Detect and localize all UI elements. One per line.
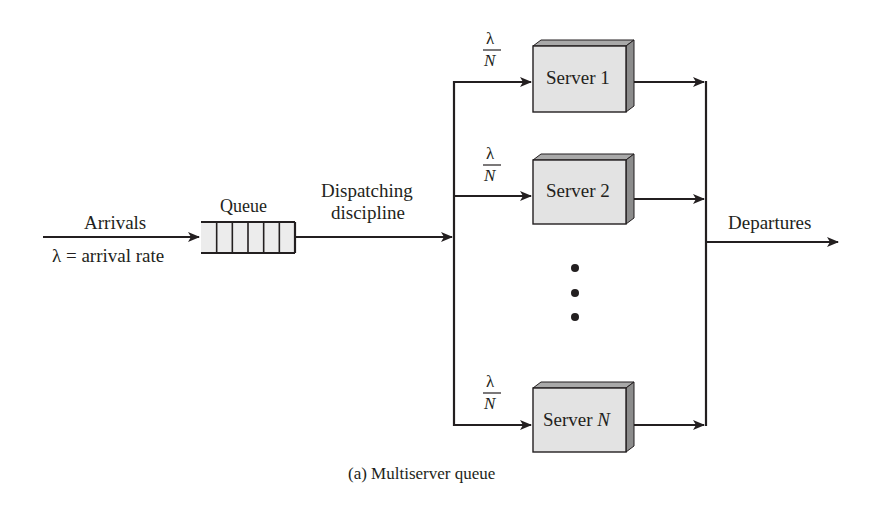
rate-denominator-n: N: [484, 394, 495, 414]
rate-denominator-1: N: [484, 51, 495, 71]
server-label-number: 2: [600, 180, 610, 201]
arrival-rate-label: λ = arrival rate: [52, 245, 164, 267]
more-servers-ellipsis: [571, 264, 579, 321]
server-label-n: Server N: [543, 409, 610, 431]
server-label-prefix: Server: [546, 180, 596, 201]
server-label-prefix: Server: [546, 67, 596, 88]
figure-caption: (a) Multiserver queue: [348, 464, 495, 484]
server-label-1: Server 1: [546, 67, 610, 89]
rate-denominator-2: N: [484, 166, 495, 186]
rate-numerator-1: λ: [486, 29, 494, 49]
dispatching-label-line1: Dispatching: [321, 180, 413, 202]
queue-label: Queue: [220, 196, 267, 217]
server-label-number: N: [597, 409, 610, 430]
queue-buffer: [201, 222, 295, 253]
rate-numerator-2: λ: [486, 144, 494, 164]
departures-label: Departures: [728, 212, 811, 234]
arrivals-label: Arrivals: [84, 212, 146, 234]
rate-numerator-n: λ: [486, 372, 494, 392]
server-label-prefix: Server: [543, 409, 593, 430]
dispatching-label-line2: discipline: [331, 202, 405, 224]
server-label-number: 1: [600, 67, 610, 88]
server-label-2: Server 2: [546, 180, 610, 202]
